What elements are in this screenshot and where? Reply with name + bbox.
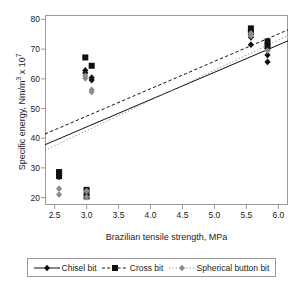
chart-root: 20304050607080 2.53.03.54.04.55.05.56.0 … bbox=[0, 0, 302, 290]
data-point bbox=[56, 191, 62, 198]
data-point bbox=[56, 173, 62, 179]
y-axis-title: Specific energy, Nm/m3 x 107 bbox=[15, 17, 27, 207]
x-tick-label: 3.5 bbox=[107, 210, 131, 220]
x-tick-label: 4.0 bbox=[139, 210, 163, 220]
data-point bbox=[264, 59, 270, 66]
x-axis-title: Brazilian tensile strength, MPa bbox=[45, 232, 288, 242]
x-tick-label: 3.0 bbox=[75, 210, 99, 220]
legend-key-spherical-button-bit-icon bbox=[169, 263, 195, 273]
y-axis-title-mid: x 10 bbox=[17, 57, 27, 77]
axis-ticks bbox=[41, 19, 278, 209]
legend-item-chisel-bit[interactable]: Chisel bit bbox=[34, 263, 97, 273]
legend-label-cross-bit: Cross bit bbox=[130, 263, 164, 273]
x-tick-label: 5.0 bbox=[202, 210, 226, 220]
legend-item-cross-bit[interactable]: Cross bit bbox=[102, 263, 164, 273]
regression-line bbox=[45, 41, 288, 145]
x-tick-label: 2.5 bbox=[43, 210, 67, 220]
legend-label-spherical-button-bit: Spherical button bit bbox=[197, 263, 270, 273]
x-tick-label: 4.5 bbox=[170, 210, 194, 220]
chart-legend: Chisel bit Cross bit Spherical button bi… bbox=[27, 258, 276, 277]
data-point bbox=[89, 63, 95, 69]
y-axis-title-sup-volume: 3 bbox=[15, 77, 22, 81]
y-axis-title-text: Specific energy, Nm/m bbox=[17, 80, 27, 170]
x-tick-label: 6.0 bbox=[266, 210, 290, 220]
legend-label-chisel-bit: Chisel bit bbox=[62, 263, 97, 273]
data-point bbox=[56, 185, 62, 192]
legend-item-spherical-button-bit[interactable]: Spherical button bit bbox=[169, 263, 270, 273]
legend-key-cross-bit-icon bbox=[102, 263, 128, 273]
y-axis-title-sup-exp: 7 bbox=[15, 54, 22, 58]
regression-lines bbox=[45, 30, 288, 151]
chart-canvas bbox=[0, 0, 302, 290]
data-point bbox=[82, 54, 88, 60]
legend-key-chisel-bit-icon bbox=[34, 263, 60, 273]
x-tick-label: 5.5 bbox=[234, 210, 258, 220]
